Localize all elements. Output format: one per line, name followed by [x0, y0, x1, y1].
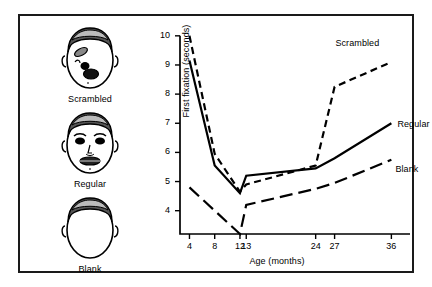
y-tick-label: 5 — [154, 176, 170, 186]
series-line-scrambled — [189, 36, 391, 192]
regular-face-icon — [55, 107, 125, 179]
x-tick-label: 4 — [180, 241, 198, 251]
y-tick-label: 9 — [154, 59, 170, 69]
stimulus-caption: Blank — [40, 264, 140, 275]
stimulus-blank: Blank — [40, 192, 140, 275]
y-tick-label: 7 — [154, 117, 170, 127]
stimulus-regular: Regular — [40, 107, 140, 190]
y-tick-label: 8 — [154, 88, 170, 98]
y-tick-label: 6 — [154, 146, 170, 156]
blank-face-icon — [55, 192, 125, 264]
x-tick-label: 13 — [237, 241, 255, 251]
series-label-regular: Regular — [397, 119, 429, 129]
x-axis-title: Age (months) — [192, 256, 362, 266]
series-label-scrambled: Scrambled — [335, 38, 379, 48]
stimulus-caption: Regular — [40, 179, 140, 190]
chart-canvas — [132, 20, 412, 272]
y-tick-label: 10 — [154, 30, 170, 40]
x-tick-label: 36 — [382, 241, 400, 251]
scrambled-face-icon — [55, 22, 125, 94]
y-tick-label: 4 — [154, 205, 170, 215]
x-tick-label: 27 — [326, 241, 344, 251]
line-chart: First fixation (seconds) Age (months) 45… — [132, 20, 412, 272]
series-label-blank: Blank — [395, 164, 418, 174]
figure-panel: Scrambled Regular — [18, 14, 414, 273]
x-tick-label: 24 — [307, 241, 325, 251]
stimulus-illustrations: Scrambled Regular — [40, 20, 140, 270]
x-tick-label: 8 — [206, 241, 224, 251]
stimulus-scrambled: Scrambled — [40, 22, 140, 105]
y-axis-title: First fixation (seconds) — [181, 11, 191, 131]
stimulus-caption: Scrambled — [40, 94, 140, 105]
